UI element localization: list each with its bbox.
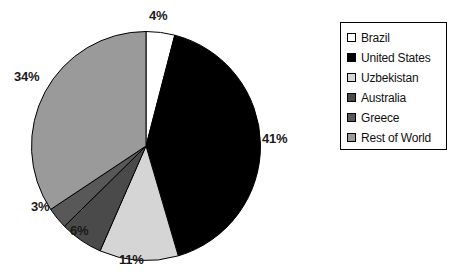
chart-screenshot: 4%41%11%6%3%34% BrazilUnited StatesUzbek…	[0, 0, 459, 279]
legend-color-swatch-icon	[347, 93, 356, 102]
legend-item: Brazil	[347, 28, 446, 47]
pie-percentage-label: 6%	[70, 223, 88, 238]
legend-color-swatch-icon	[347, 33, 356, 42]
legend-item-label: Uzbekistan	[361, 71, 418, 85]
pie-percentage-label: 41%	[262, 131, 287, 146]
pie-chart-area: 4%41%11%6%3%34%	[0, 0, 330, 279]
legend-color-swatch-icon	[347, 113, 356, 122]
pie-percentage-label: 11%	[119, 252, 144, 267]
pie-slice-group	[32, 31, 261, 260]
legend-item-label: Greece	[361, 111, 399, 125]
legend-item-list: BrazilUnited StatesUzbekistanAustraliaGr…	[347, 28, 446, 147]
legend-item: Uzbekistan	[347, 68, 446, 87]
legend-item-label: United States	[361, 51, 430, 65]
legend-color-swatch-icon	[347, 53, 356, 62]
chart-legend: BrazilUnited StatesUzbekistanAustraliaGr…	[340, 22, 447, 150]
legend-item: Australia	[347, 88, 446, 107]
pie-percentage-label: 3%	[31, 199, 49, 214]
pie-percentage-label: 34%	[14, 69, 39, 84]
legend-item-label: Brazil	[361, 31, 390, 45]
legend-item: Greece	[347, 108, 446, 127]
legend-color-swatch-icon	[347, 73, 356, 82]
legend-color-swatch-icon	[347, 133, 356, 142]
legend-item: Rest of World	[347, 128, 446, 147]
legend-item-label: Rest of World	[361, 131, 431, 145]
pie-chart	[30, 30, 262, 262]
legend-item-label: Australia	[361, 91, 406, 105]
pie-percentage-label: 4%	[149, 8, 167, 23]
legend-item: United States	[347, 48, 446, 67]
